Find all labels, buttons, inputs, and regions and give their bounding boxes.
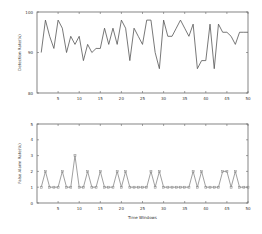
x-tick-label: 25 <box>140 96 146 101</box>
detection-rate-chart: 51015202530354045508090100Detection Rate… <box>17 10 251 102</box>
x-tick-label: 50 <box>245 96 251 101</box>
y-tick-label: 4 <box>30 137 33 142</box>
y-tick-label: 5 <box>30 122 33 127</box>
y-tick-label: 0 <box>30 201 33 206</box>
x-tick-label: 5 <box>57 96 60 101</box>
x-tick-label: 15 <box>98 96 104 101</box>
chart-figure: 51015202530354045508090100Detection Rate… <box>0 0 262 234</box>
x-tick-label: 40 <box>203 206 209 211</box>
x-tick-label: 30 <box>161 206 167 211</box>
false-alarm-rate-chart: 5101520253035404550012345False Alarm Rat… <box>17 122 251 221</box>
x-tick-label: 35 <box>182 96 188 101</box>
y-tick-label: 100 <box>25 10 33 15</box>
y-tick-label: 90 <box>28 50 34 55</box>
false-alarm-rate-x-axis-label: Time Windows <box>127 215 157 220</box>
false-alarm-rate-plot-frame <box>37 124 248 203</box>
x-tick-label: 45 <box>224 206 230 211</box>
x-tick-label: 25 <box>140 206 146 211</box>
x-tick-label: 10 <box>77 206 83 211</box>
x-tick-label: 10 <box>77 96 83 101</box>
x-tick-label: 40 <box>203 96 209 101</box>
detection-rate-plot-frame <box>37 12 248 93</box>
x-tick-label: 35 <box>182 206 188 211</box>
y-tick-label: 1 <box>30 185 33 190</box>
y-tick-label: 2 <box>30 169 33 174</box>
false-alarm-rate-y-axis-label: False Alarm Rate(%) <box>17 143 22 184</box>
detection-rate-y-axis-label: Detection Rate(%) <box>17 34 22 71</box>
x-tick-label: 50 <box>245 206 251 211</box>
x-tick-label: 5 <box>57 206 60 211</box>
x-tick-label: 45 <box>224 96 230 101</box>
detection-rate-series-line <box>41 20 248 69</box>
false-alarm-rate-series-line <box>41 156 248 188</box>
y-tick-label: 80 <box>28 91 34 96</box>
y-tick-label: 3 <box>30 153 33 158</box>
x-tick-label: 20 <box>119 206 125 211</box>
x-tick-label: 30 <box>161 96 167 101</box>
x-tick-label: 20 <box>119 96 125 101</box>
x-tick-label: 15 <box>98 206 104 211</box>
